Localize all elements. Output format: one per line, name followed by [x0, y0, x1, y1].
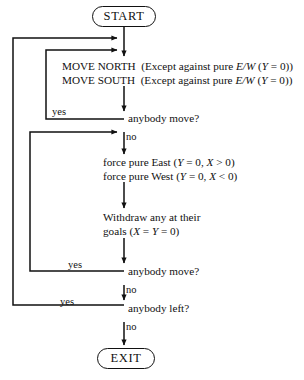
edge-label-yes-1: yes [52, 106, 66, 117]
process-force-east-prefix: force pure East ( [103, 156, 177, 168]
process-move-cond-italic-south: E/W [235, 74, 254, 86]
edge-label-yes-3: yes [60, 296, 74, 307]
process-withdraw-var-x: X [133, 225, 140, 237]
process-withdraw-line-2: goals (X = Y = 0) [103, 225, 200, 239]
process-move-cond-prefix-south: (Except against pure [141, 74, 236, 86]
decision-anybody-move-2: anybody move? [128, 265, 199, 277]
process-withdraw: Withdraw any at their goals (X = Y = 0) [103, 211, 200, 238]
process-force-west-prefix: force pure West ( [103, 170, 180, 182]
flowchart-connector-layer [0, 0, 304, 380]
edge-label-no-3: no [126, 321, 137, 332]
process-move: MOVE NORTH (Except against pure E/W (Y =… [62, 60, 293, 87]
process-move-action-south: MOVE SOUTH [62, 74, 135, 86]
process-force-west-suffix: < 0) [216, 170, 237, 182]
edge-label-no-1: no [126, 131, 137, 142]
decision-anybody-move-1: anybody move? [128, 112, 199, 124]
process-move-cond-suffix-north: = 0)) [268, 60, 293, 72]
decision-anybody-left: anybody left? [128, 302, 189, 314]
process-force-west-var-x: X [209, 170, 216, 182]
process-move-line-1: MOVE NORTH (Except against pure E/W (Y =… [62, 60, 293, 74]
process-move-cond-italic-north: E/W [236, 60, 255, 72]
process-move-cond-suffix-south: = 0)) [267, 74, 292, 86]
process-withdraw-mid: = [140, 225, 152, 237]
process-force-line-west: force pure West (Y = 0, X < 0) [103, 170, 237, 184]
process-withdraw-line-1: Withdraw any at their [103, 211, 200, 225]
process-move-cond-prefix-north: (Except against pure [141, 60, 236, 72]
process-force-east-suffix: > 0) [213, 156, 234, 168]
process-force-line-east: force pure East (Y = 0, X > 0) [103, 156, 237, 170]
edge-label-yes-2: yes [68, 259, 82, 270]
flowchart-page: START EXIT MOVE NORTH (Except against pu… [0, 0, 304, 380]
process-withdraw-suffix: = 0) [158, 225, 179, 237]
rail-withdraw-loop [30, 132, 124, 271]
process-withdraw-prefix: goals ( [103, 225, 133, 237]
process-force-east-mid: = 0, [183, 156, 206, 168]
terminal-exit: EXIT [97, 348, 155, 369]
process-move-line-2: MOVE SOUTH (Except against pure E/W (Y =… [62, 74, 293, 88]
terminal-start: START [92, 6, 156, 27]
process-force: force pure East (Y = 0, X > 0) force pur… [103, 156, 237, 183]
process-move-action-north: MOVE NORTH [62, 60, 136, 72]
edge-label-no-2: no [126, 284, 137, 295]
process-force-west-mid: = 0, [186, 170, 209, 182]
